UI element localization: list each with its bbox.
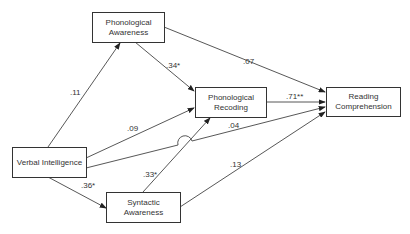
node-label: Awareness [109, 28, 148, 38]
node-label: Reading [349, 92, 379, 102]
arrow-pa-pr [135, 42, 194, 91]
node-label: Comprehension [335, 102, 391, 112]
arrow-vi-sa [48, 177, 106, 208]
node-phonological-awareness: Phonological Awareness [92, 12, 165, 43]
node-label: Awareness [124, 208, 163, 218]
coef-vi-pa: .11 [70, 88, 81, 97]
coef-sa-rc: .13 [230, 160, 241, 169]
coef-vi-rc: .04 [228, 121, 239, 130]
coef-vi-pr: .09 [127, 124, 138, 133]
node-reading-comprehension: Reading Comprehension [326, 87, 401, 117]
node-label: Recoding [214, 103, 248, 113]
node-label: Syntactic [127, 198, 159, 208]
coef-sa-pr: .33* [143, 170, 157, 179]
node-verbal-intelligence: Verbal Intelligence [12, 147, 87, 178]
node-label: Verbal Intelligence [17, 158, 82, 168]
coef-pa-rc: .07 [243, 57, 254, 66]
arrow-vi-pr [86, 108, 194, 158]
node-label: Phonological [208, 93, 254, 103]
coef-vi-sa: .36* [81, 181, 95, 190]
coef-pr-rc: .71** [286, 92, 303, 101]
node-label: Phonological [106, 18, 152, 28]
coef-pa-pr: .34* [166, 61, 180, 70]
node-phonological-recoding: Phonological Recoding [195, 87, 267, 118]
node-syntactic-awareness: Syntactic Awareness [106, 192, 181, 223]
arrow-vi-pa [48, 43, 120, 147]
arrow-sa-pr [143, 118, 210, 192]
arrow-sa-rc [180, 112, 325, 207]
